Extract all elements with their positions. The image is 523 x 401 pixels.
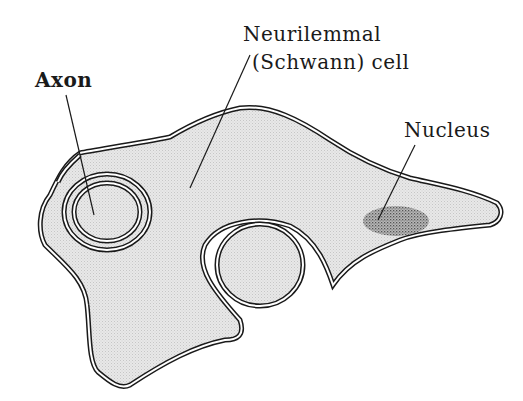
nucleus-label-text: Nucleus <box>404 118 490 142</box>
schwann-cell-label-line2: (Schwann) cell <box>252 50 409 74</box>
axon-right <box>217 224 303 306</box>
axon-label-text: Axon <box>35 68 92 92</box>
axon-left <box>64 174 150 250</box>
schwann-label-text-1: Neurilemmal <box>243 22 381 46</box>
schwann-label-text-2: (Schwann) cell <box>252 50 409 74</box>
schwann-cell-label-line1: Neurilemmal <box>243 22 381 46</box>
nucleus <box>363 206 429 236</box>
nucleus-label: Nucleus <box>404 118 490 142</box>
schwann-cell-diagram: Axon Neurilemmal (Schwann) cell Nucleus <box>0 0 523 401</box>
axon-label: Axon <box>35 68 92 92</box>
